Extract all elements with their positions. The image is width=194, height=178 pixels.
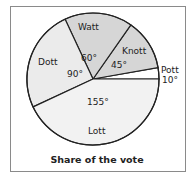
watt-label: Watt	[78, 22, 99, 32]
dott-label: Dott	[38, 57, 58, 67]
dott-value: 90°	[67, 69, 83, 79]
pott-label: Pott	[161, 65, 179, 75]
lott-value: 155°	[87, 97, 109, 107]
watt-value: 60°	[81, 53, 97, 63]
knott-value: 45°	[111, 60, 127, 70]
lott-label: Lott	[88, 126, 106, 136]
chart-title: Share of the vote	[50, 154, 143, 165]
pie-chart: Watt 60° Knott 45° Pott 10° Dott 90° 155…	[0, 0, 194, 178]
knott-label: Knott	[122, 46, 147, 56]
pott-value: 10°	[162, 75, 178, 85]
